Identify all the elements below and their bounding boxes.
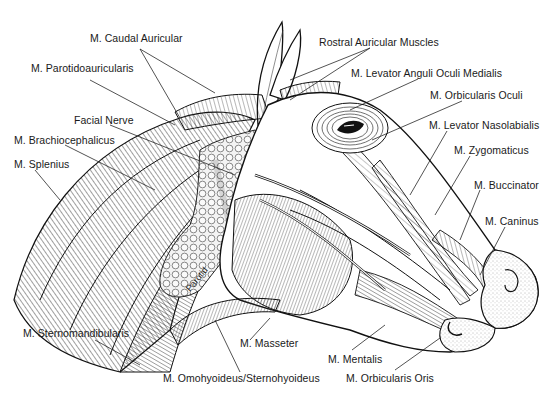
label-brachiocephalicus: M. Brachiocephalicus [14,134,115,146]
label-splenius: M. Splenius [14,158,69,170]
label-parotidoauricularis: M. Parotidoauricularis [31,62,134,74]
label-facial-nerve: Facial Nerve [74,114,134,126]
label-sternomandibularis: M. Sternomandibularis [23,327,129,339]
label-caninus: M. Caninus [485,215,539,227]
label-caudal-auricular: M. Caudal Auricular [90,32,183,44]
label-omohyoideus: M. Omohyoideus/Sternohyoideus [163,372,320,384]
label-mentalis: M. Mentalis [328,353,382,365]
label-buccinator: M. Buccinator [474,179,539,191]
label-levator-anguli-oculi: M. Levator Anguli Oculi Medialis [351,67,502,79]
label-levator-nasolabialis: M. Levator Nasolabialis [429,119,539,131]
label-zygomaticus: M. Zygomaticus [454,144,529,156]
label-orbicularis-oris: M. Orbicularis Oris [346,372,434,384]
label-rostral-auricular: Rostral Auricular Muscles [319,36,439,48]
eye [312,103,388,153]
label-orbicularis-oculi: M. Orbicularis Oculi [430,89,523,101]
label-masseter: M. Masseter [240,337,298,349]
anatomy-diagram: Gland Parotid [0,0,552,394]
